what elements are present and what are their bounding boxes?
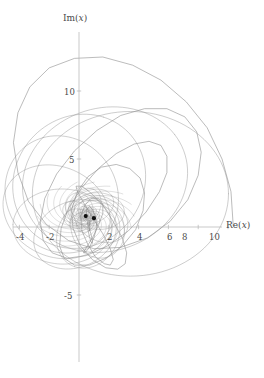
plot-canvas — [0, 0, 264, 378]
x-axis-title-fn: Re — [226, 220, 238, 230]
x-axis-title: Re(x) — [226, 221, 250, 230]
orbit-curves — [3, 57, 233, 276]
x-tick-label-6: 6 — [167, 233, 173, 242]
y-axis-title-fn: Im — [63, 13, 75, 23]
x-tick-label--4: -4 — [16, 233, 25, 242]
marker-point-1 — [84, 214, 88, 218]
x-tick-label-4: 4 — [137, 233, 143, 242]
orbit-path — [23, 107, 188, 253]
y-axis-title: Im(x) — [63, 14, 87, 23]
x-tick-label-10: 10 — [209, 233, 220, 242]
x-tick-label-8: 8 — [182, 233, 188, 242]
y-tick-label--5: -5 — [64, 292, 73, 301]
marker-point-2 — [92, 216, 96, 220]
y-tick-label-10: 10 — [64, 88, 75, 97]
axis-lines — [13, 32, 222, 362]
y-tick-label-5: 5 — [69, 156, 75, 165]
x-tick-label-2: 2 — [107, 233, 113, 242]
tick-marks — [19, 91, 228, 295]
complex-plane-plot: -4 -2 2 4 6 8 10 10 5 -5 Im(x) Re(x) — [0, 0, 264, 378]
x-tick-label--2: -2 — [46, 233, 55, 242]
